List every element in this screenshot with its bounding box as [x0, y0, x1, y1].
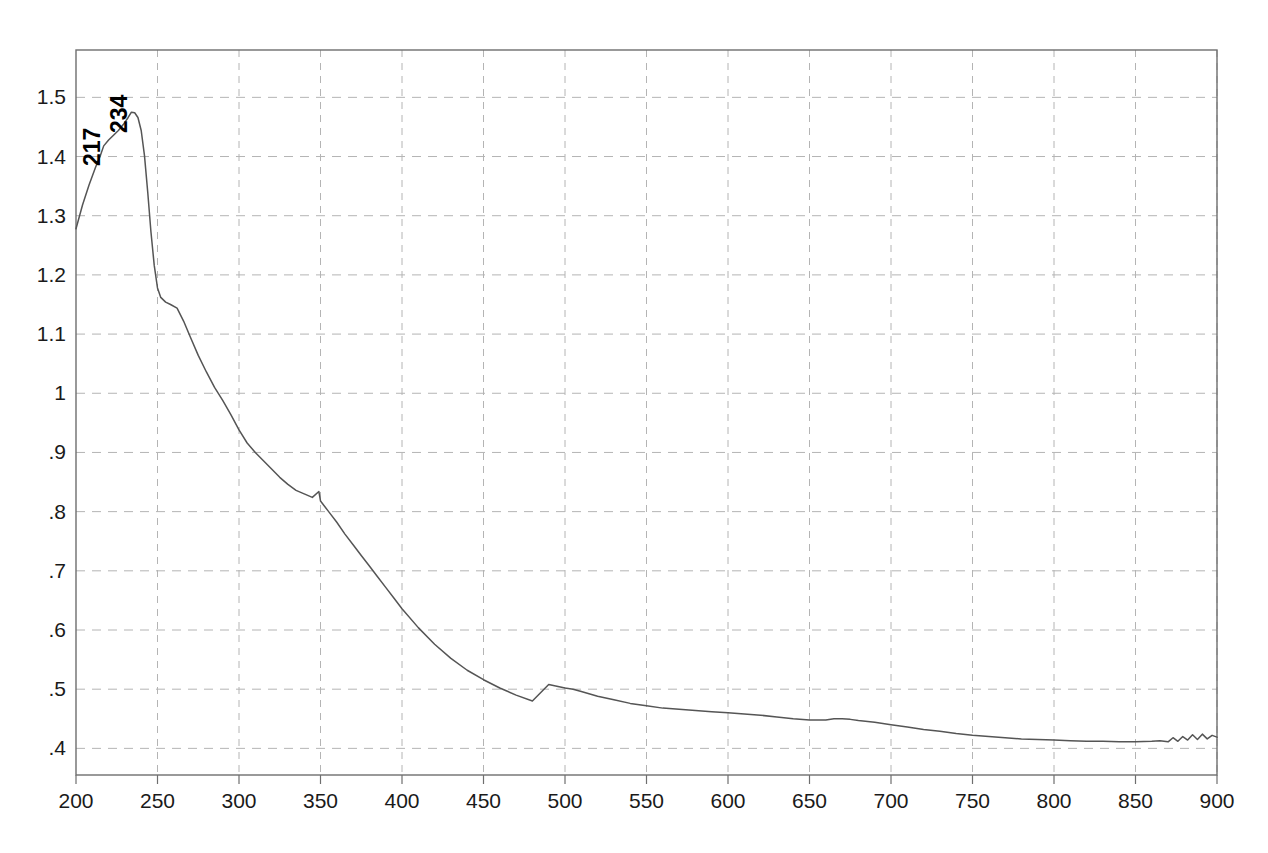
- x-tick-label: 400: [362, 789, 442, 813]
- y-tick-label: 1.2: [6, 263, 66, 287]
- y-tick-label: .9: [6, 440, 66, 464]
- y-tick-label: 1.4: [6, 145, 66, 169]
- plot-area: [0, 0, 1268, 853]
- x-tick-label: 200: [36, 789, 116, 813]
- y-tick-label: .4: [6, 736, 66, 760]
- y-tick-label: 1.5: [6, 85, 66, 109]
- x-axis-ticks: [76, 775, 1217, 784]
- x-tick-label: 300: [199, 789, 279, 813]
- x-tick-label: 650: [770, 789, 850, 813]
- y-tick-label: 1: [6, 381, 66, 405]
- vertical-gridlines: [158, 50, 1218, 775]
- x-tick-label: 750: [933, 789, 1013, 813]
- spectrum-chart: .4.5.6.7.8.911.11.21.31.41.5 20025030035…: [0, 0, 1268, 853]
- y-tick-label: .8: [6, 500, 66, 524]
- y-tick-label: .6: [6, 618, 66, 642]
- x-tick-label: 600: [688, 789, 768, 813]
- y-tick-label: 1.3: [6, 204, 66, 228]
- y-tick-label: .5: [6, 677, 66, 701]
- x-tick-label: 550: [607, 789, 687, 813]
- y-tick-label: 1.1: [6, 322, 66, 346]
- x-tick-label: 850: [1096, 789, 1176, 813]
- peak-label: 234: [106, 95, 133, 133]
- x-tick-label: 250: [118, 789, 198, 813]
- x-tick-label: 500: [525, 789, 605, 813]
- x-tick-label: 800: [1014, 789, 1094, 813]
- x-tick-label: 450: [444, 789, 524, 813]
- x-tick-label: 350: [281, 789, 361, 813]
- x-tick-label: 700: [851, 789, 931, 813]
- peak-label: 217: [79, 127, 106, 165]
- x-tick-label: 900: [1177, 789, 1257, 813]
- y-tick-label: .7: [6, 559, 66, 583]
